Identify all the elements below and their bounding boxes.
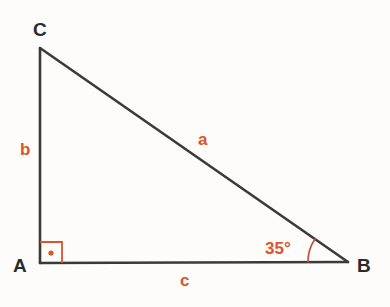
side-label-b: b (20, 141, 30, 158)
angle-arc-at-b (308, 239, 315, 262)
triangle-figure (0, 0, 390, 307)
vertex-label-a: A (13, 256, 27, 275)
vertex-label-b: B (357, 256, 371, 275)
right-angle-dot-icon (48, 250, 53, 255)
angle-label-at-b: 35° (265, 240, 291, 257)
side-label-a: a (198, 131, 207, 148)
side-a-line (40, 48, 348, 262)
figure-canvas: C A B a b c 35° (0, 0, 390, 307)
vertex-label-c: C (33, 20, 47, 39)
side-label-c: c (180, 272, 189, 289)
side-c-line (40, 262, 348, 263)
